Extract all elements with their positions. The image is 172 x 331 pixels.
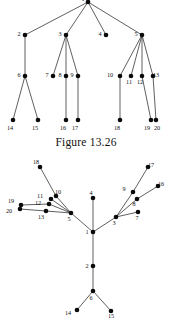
tree-node-label-18: 18: [33, 160, 39, 165]
tree-node-19[interactable]: [19, 203, 24, 208]
tree-edge: [88, 2, 106, 35]
free-tree-graph: 1234567891011121314151617181920: [0, 160, 172, 331]
tree-node-label-7: 7: [135, 214, 138, 221]
tree-node-11[interactable]: [49, 197, 54, 202]
tree-node-label-19: 19: [144, 124, 150, 131]
tree-node-6[interactable]: [23, 74, 28, 79]
tree-node-15[interactable]: [36, 118, 41, 123]
tree-node-label-9: 9: [122, 185, 125, 192]
tree-node-label-1: 1: [85, 228, 88, 235]
tree-node-14[interactable]: [75, 308, 80, 313]
tree-edge: [120, 35, 142, 76]
tree-node-label-1: 1: [81, 0, 84, 2]
tree-edge: [93, 291, 111, 311]
tree-edge: [66, 35, 78, 76]
tree-node-label-2: 2: [17, 30, 20, 37]
tree-node-20[interactable]: [18, 207, 23, 212]
page-canvas: 1234567891011121314151617181920 Figure 1…: [0, 0, 172, 331]
tree-node-label-12: 12: [137, 78, 143, 85]
tree-node-label-17: 17: [72, 124, 78, 131]
tree-node-label-20: 20: [6, 207, 12, 214]
tree-node-label-15: 15: [108, 312, 114, 319]
tree-node-label-4: 4: [98, 30, 101, 37]
tree-node-label-4: 4: [89, 189, 92, 196]
tree-edge: [131, 35, 142, 76]
tree-node-label-10: 10: [107, 71, 113, 78]
rooted-tree-graph: 1234567891011121314151617181920: [0, 0, 172, 152]
figure-free-tree: 1234567891011121314151617181920: [0, 160, 172, 331]
tree-node-label-15: 15: [32, 124, 38, 131]
tree-node-label-11: 11: [126, 78, 132, 85]
tree-node-label-17: 17: [148, 161, 154, 168]
tree-edge: [133, 167, 148, 192]
tree-node-label-19: 19: [8, 197, 14, 204]
tree-node-9[interactable]: [76, 74, 81, 79]
figure-rooted-tree: 1234567891011121314151617181920: [0, 0, 172, 152]
tree-node-4[interactable]: [91, 196, 96, 201]
tree-node-12[interactable]: [47, 202, 52, 207]
tree-edge: [153, 76, 156, 120]
tree-edge: [13, 76, 25, 120]
tree-node-label-6: 6: [17, 71, 20, 78]
tree-node-1[interactable]: [86, 0, 91, 4]
tree-node-label-16: 16: [60, 124, 66, 131]
tree-edge: [142, 35, 153, 76]
tree-node-2[interactable]: [91, 264, 96, 269]
tree-node-2[interactable]: [23, 33, 28, 38]
tree-edge: [20, 209, 46, 211]
tree-node-7[interactable]: [51, 74, 56, 79]
tree-node-label-10: 10: [55, 188, 61, 195]
tree-node-label-5: 5: [67, 215, 70, 222]
tree-node-label-20: 20: [154, 124, 160, 131]
tree-edge: [66, 2, 88, 35]
tree-node-13[interactable]: [44, 209, 49, 214]
tree-node-label-3: 3: [112, 219, 115, 226]
tree-edge: [137, 186, 158, 199]
tree-edge: [53, 35, 66, 76]
tree-node-label-5: 5: [134, 30, 137, 37]
tree-node-label-3: 3: [58, 30, 61, 37]
tree-node-label-8: 8: [132, 200, 135, 207]
tree-edge: [25, 76, 38, 120]
tree-node-label-13: 13: [38, 213, 44, 220]
tree-node-20[interactable]: [154, 118, 159, 123]
tree-edge: [25, 2, 88, 35]
tree-node-label-7: 7: [45, 71, 48, 78]
tree-node-10[interactable]: [118, 74, 123, 79]
tree-node-6[interactable]: [91, 289, 96, 294]
tree-node-label-11: 11: [37, 192, 43, 199]
tree-node-8[interactable]: [64, 74, 69, 79]
tree-node-19[interactable]: [149, 118, 154, 123]
tree-edge: [142, 76, 151, 120]
tree-node-5[interactable]: [140, 33, 145, 38]
tree-node-label-14: 14: [65, 309, 71, 316]
tree-node-3[interactable]: [64, 33, 69, 38]
tree-node-14[interactable]: [11, 118, 16, 123]
tree-node-1[interactable]: [91, 230, 96, 235]
tree-edge: [71, 213, 93, 232]
tree-node-18[interactable]: [38, 165, 43, 170]
tree-node-label-2: 2: [85, 262, 88, 269]
tree-node-9[interactable]: [131, 190, 136, 195]
tree-node-label-9: 9: [70, 71, 73, 78]
tree-node-label-16: 16: [158, 180, 164, 187]
tree-node-label-13: 13: [153, 71, 159, 78]
tree-node-4[interactable]: [104, 33, 109, 38]
tree-node-18[interactable]: [118, 118, 123, 123]
tree-node-17[interactable]: [76, 118, 81, 123]
tree-node-label-8: 8: [58, 71, 61, 78]
tree-node-label-12: 12: [35, 199, 41, 206]
figure-caption: Figure 13.26: [0, 136, 172, 148]
tree-node-16[interactable]: [64, 118, 69, 123]
tree-node-label-18: 18: [114, 124, 120, 131]
tree-node-label-6: 6: [89, 294, 92, 301]
tree-node-label-14: 14: [7, 124, 13, 131]
